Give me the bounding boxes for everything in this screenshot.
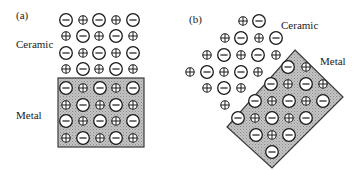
anion-icon	[283, 129, 296, 142]
anion-icon	[300, 78, 313, 91]
cation-icon	[79, 16, 87, 24]
cation-icon	[79, 49, 87, 57]
cation-icon	[203, 84, 211, 92]
cation-icon	[203, 51, 211, 59]
cation-icon	[220, 68, 228, 76]
cation-icon	[254, 68, 262, 76]
anion-icon	[77, 99, 90, 112]
anion-icon	[60, 14, 73, 27]
cation-icon	[112, 117, 120, 125]
anion-icon	[93, 47, 106, 60]
panel-a-ceramic-lattice	[60, 14, 140, 76]
anion-icon	[127, 115, 140, 128]
cation-icon	[272, 51, 280, 59]
anion-icon	[266, 146, 279, 159]
anion-icon	[235, 66, 248, 79]
anion-icon	[282, 61, 295, 74]
anion-icon	[110, 132, 123, 145]
anion-icon	[77, 30, 90, 43]
cation-icon	[112, 49, 120, 57]
cation-icon	[129, 65, 137, 73]
anion-icon	[127, 82, 140, 95]
cation-icon	[237, 84, 245, 92]
anion-icon	[127, 14, 140, 27]
anion-icon	[249, 95, 262, 108]
anion-icon	[265, 78, 278, 91]
cation-icon	[112, 16, 120, 24]
cation-icon	[129, 32, 137, 40]
cation-icon	[268, 97, 276, 105]
anion-icon	[218, 49, 231, 62]
anion-icon	[218, 82, 231, 95]
anion-icon	[232, 112, 245, 125]
anion-icon	[300, 112, 313, 125]
cation-icon	[268, 131, 276, 139]
cation-icon	[285, 114, 293, 122]
cation-icon	[255, 34, 263, 42]
anion-icon	[60, 47, 73, 60]
cation-icon	[237, 51, 245, 59]
cation-icon	[112, 84, 120, 92]
cation-icon	[96, 134, 104, 142]
cation-icon	[186, 68, 194, 76]
anion-icon	[77, 132, 90, 145]
cation-icon	[62, 101, 70, 109]
anion-icon	[94, 115, 107, 128]
cation-icon	[129, 101, 137, 109]
cation-icon	[284, 80, 292, 88]
anion-icon	[60, 82, 73, 95]
anion-icon	[110, 63, 123, 76]
anion-icon	[317, 95, 330, 108]
cation-icon	[302, 63, 310, 71]
anion-icon	[283, 95, 296, 108]
anion-icon	[93, 14, 106, 27]
anion-icon	[60, 115, 73, 128]
ceramic-metal-interface-diagram	[0, 0, 358, 170]
cation-icon	[62, 134, 70, 142]
anion-icon	[94, 82, 107, 95]
cation-icon	[96, 101, 104, 109]
cation-icon	[79, 84, 87, 92]
anion-icon	[110, 30, 123, 43]
cation-icon	[62, 65, 70, 73]
cation-icon	[239, 17, 247, 25]
anion-icon	[201, 66, 214, 79]
cation-icon	[79, 117, 87, 125]
cation-icon	[129, 134, 137, 142]
cation-icon	[95, 65, 103, 73]
cation-icon	[62, 32, 70, 40]
anion-icon	[253, 15, 266, 28]
anion-icon	[266, 112, 279, 125]
anion-icon	[127, 47, 140, 60]
anion-icon	[250, 129, 263, 142]
anion-icon	[110, 99, 123, 112]
anion-icon	[270, 32, 283, 45]
cation-icon	[302, 97, 310, 105]
cation-icon	[251, 114, 259, 122]
cation-icon	[221, 101, 229, 109]
cation-icon	[221, 34, 229, 42]
anion-icon	[77, 63, 90, 76]
anion-icon	[252, 49, 265, 62]
cation-icon	[319, 80, 327, 88]
cation-icon	[95, 32, 103, 40]
anion-icon	[235, 32, 248, 45]
